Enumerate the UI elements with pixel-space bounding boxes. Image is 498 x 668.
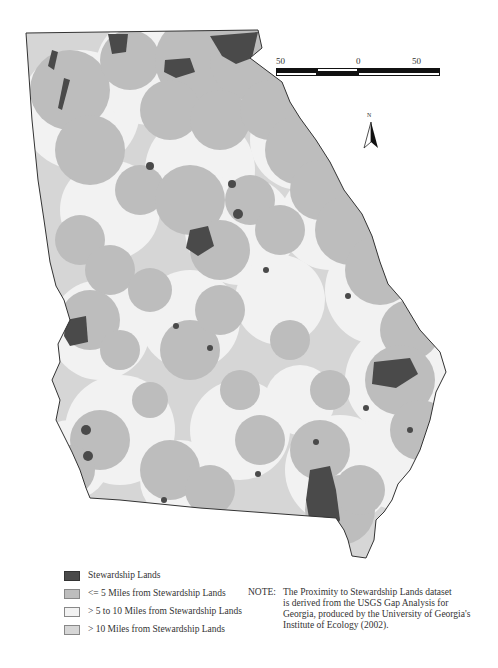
- legend-swatch-within-5: [64, 589, 80, 599]
- scale-bar-segments: [276, 68, 440, 76]
- legend-swatch-5-to-10: [64, 607, 80, 617]
- note-line: Institute of Ecology (2002).: [283, 620, 483, 631]
- north-label: N: [367, 112, 371, 118]
- legend-label: <= 5 Miles from Stewardship Lands: [88, 588, 226, 598]
- note-line: is derived from the USGS Gap Analysis fo…: [283, 598, 483, 609]
- scale-bar: 50 0 50 Miles: [276, 56, 442, 84]
- note-text: The Proximity to Stewardship Lands datas…: [283, 587, 483, 631]
- note-line: The Proximity to Stewardship Lands datas…: [283, 587, 483, 598]
- note-label: NOTE:: [248, 587, 276, 597]
- note-line: Georgia, produced by the University of G…: [283, 609, 483, 620]
- north-arrow-icon: [362, 120, 380, 150]
- scale-left-label: 50: [276, 56, 285, 66]
- legend-item-stewardship: Stewardship Lands: [64, 570, 304, 586]
- legend-label: > 5 to 10 Miles from Stewardship Lands: [88, 606, 242, 616]
- scale-center-label: 0: [356, 56, 361, 66]
- legend-swatch-over-10: [64, 625, 80, 635]
- north-arrow: N: [362, 112, 380, 150]
- legend-swatch-stewardship: [64, 571, 80, 581]
- legend-item-over-10: > 10 Miles from Stewardship Lands: [64, 624, 304, 640]
- legend-item-5-to-10: > 5 to 10 Miles from Stewardship Lands: [64, 606, 304, 622]
- georgia-proximity-map: [0, 0, 498, 560]
- legend-label: > 10 Miles from Stewardship Lands: [88, 624, 225, 634]
- legend-label: Stewardship Lands: [88, 570, 161, 580]
- map-canvas: [0, 0, 498, 560]
